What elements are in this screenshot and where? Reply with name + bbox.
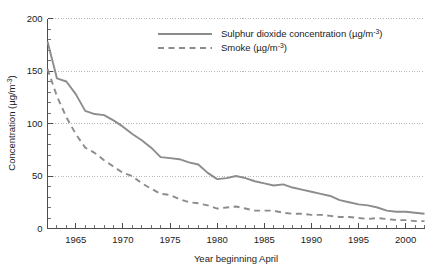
xtick-label-1970: 1970	[112, 234, 133, 245]
series-line-smoke	[48, 69, 425, 221]
chart-figure: 0501001502001965197019751980198519901995…	[0, 0, 433, 272]
line-chart: 0501001502001965197019751980198519901995…	[0, 0, 433, 272]
legend-label-sulphur-dioxide: Sulphur dioxide concentration (µg/m-3)	[221, 28, 383, 39]
ytick-label-200: 200	[27, 13, 43, 24]
xtick-label-2000: 2000	[395, 234, 416, 245]
legend-label-smoke: Smoke (µg/m-3)	[221, 42, 287, 53]
xtick-label-1995: 1995	[348, 234, 369, 245]
y-axis-title: Concentration (µg/m-3)	[6, 75, 17, 170]
xtick-label-1985: 1985	[254, 234, 275, 245]
xtick-label-1980: 1980	[207, 234, 228, 245]
ytick-label-100: 100	[27, 118, 43, 129]
xtick-label-1990: 1990	[301, 234, 322, 245]
xtick-label-1975: 1975	[159, 234, 180, 245]
ytick-label-150: 150	[27, 65, 43, 76]
x-axis-title: Year beginning April	[194, 253, 278, 264]
ytick-label-0: 0	[37, 223, 42, 234]
series-line-sulphur-dioxide	[48, 42, 425, 214]
xtick-label-1965: 1965	[65, 234, 86, 245]
ytick-label-50: 50	[32, 170, 43, 181]
